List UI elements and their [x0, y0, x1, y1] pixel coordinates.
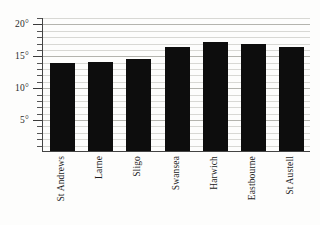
x-axis-tick-label: St Austell [286, 156, 296, 195]
bar [279, 47, 304, 151]
x-axis-tick-label: Eastbourne [248, 156, 258, 200]
x-axis-label-slot: Eastbourne [240, 154, 265, 222]
bar [203, 42, 228, 151]
bar [50, 63, 75, 151]
y-tick-major [33, 56, 42, 57]
plot-area [42, 18, 310, 152]
x-axis-tick-label: Swansea [172, 156, 182, 190]
x-axis-label-slot: Harwich [202, 154, 227, 222]
x-axis-tick-label: Sligo [133, 156, 143, 177]
x-axis-label-slot: Larne [87, 154, 112, 222]
y-axis-tick-label: 10° [15, 83, 29, 93]
bar [88, 62, 113, 151]
y-axis-tick-label: 15° [15, 51, 29, 61]
x-axis-label-slot: St Austell [278, 154, 303, 222]
x-axis-label-slot: St Andrews [49, 154, 74, 222]
y-tick-major [33, 24, 42, 25]
gridline-minor [43, 37, 310, 38]
y-axis: 20°15°10°5° [0, 18, 42, 152]
gridline-major [43, 24, 310, 25]
bar [241, 44, 266, 151]
x-axis-tick-label: St Andrews [57, 156, 67, 202]
x-axis-label-slot: Swansea [164, 154, 189, 222]
y-axis-tick-label: 20° [15, 19, 29, 29]
gridline-minor [43, 18, 310, 19]
gridline-minor [43, 44, 310, 45]
y-tick-major [33, 88, 42, 89]
bar [165, 47, 190, 151]
bar [126, 59, 151, 151]
bar-chart-figure: 20°15°10°5° St AndrewsLarneSligoSwanseaH… [0, 0, 320, 225]
y-tick-major [33, 120, 42, 121]
y-axis-tick-label: 5° [20, 115, 29, 125]
x-axis-tick-label: Harwich [210, 156, 220, 190]
x-axis-tick-label: Larne [95, 156, 105, 179]
gridline-minor [43, 31, 310, 32]
x-axis-labels: St AndrewsLarneSligoSwanseaHarwichEastbo… [42, 154, 310, 222]
x-axis-label-slot: Sligo [125, 154, 150, 222]
